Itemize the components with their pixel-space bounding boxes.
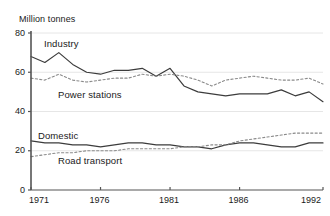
- chart-axis-title: Million tonnes: [19, 14, 75, 25]
- y-tick-label: 0: [7, 186, 25, 195]
- y-tick-label: 80: [7, 29, 25, 38]
- series-label-domestic: Domestic: [38, 131, 78, 141]
- axes: [31, 31, 323, 190]
- y-tick-label: 60: [7, 68, 25, 77]
- x-tick-label: 1992: [301, 196, 321, 205]
- series-line-power-stations: [31, 74, 323, 86]
- x-tick-label: 1981: [159, 196, 179, 205]
- chart-plot-area: [0, 0, 330, 216]
- series-label-industry: Industry: [44, 39, 79, 49]
- series-label-road-transport: Road transport: [58, 156, 122, 166]
- y-tick-label: 40: [7, 107, 25, 116]
- x-tick-label: 1971: [29, 196, 49, 205]
- series-label-power-stations: Power stations: [58, 90, 122, 100]
- x-tick-label: 1986: [229, 196, 249, 205]
- x-tick-label: 1976: [90, 196, 110, 205]
- chart-container: Million tonnes 020406080 197119761981198…: [0, 0, 330, 216]
- series-lines: [31, 53, 323, 157]
- y-tick-label: 20: [7, 146, 25, 155]
